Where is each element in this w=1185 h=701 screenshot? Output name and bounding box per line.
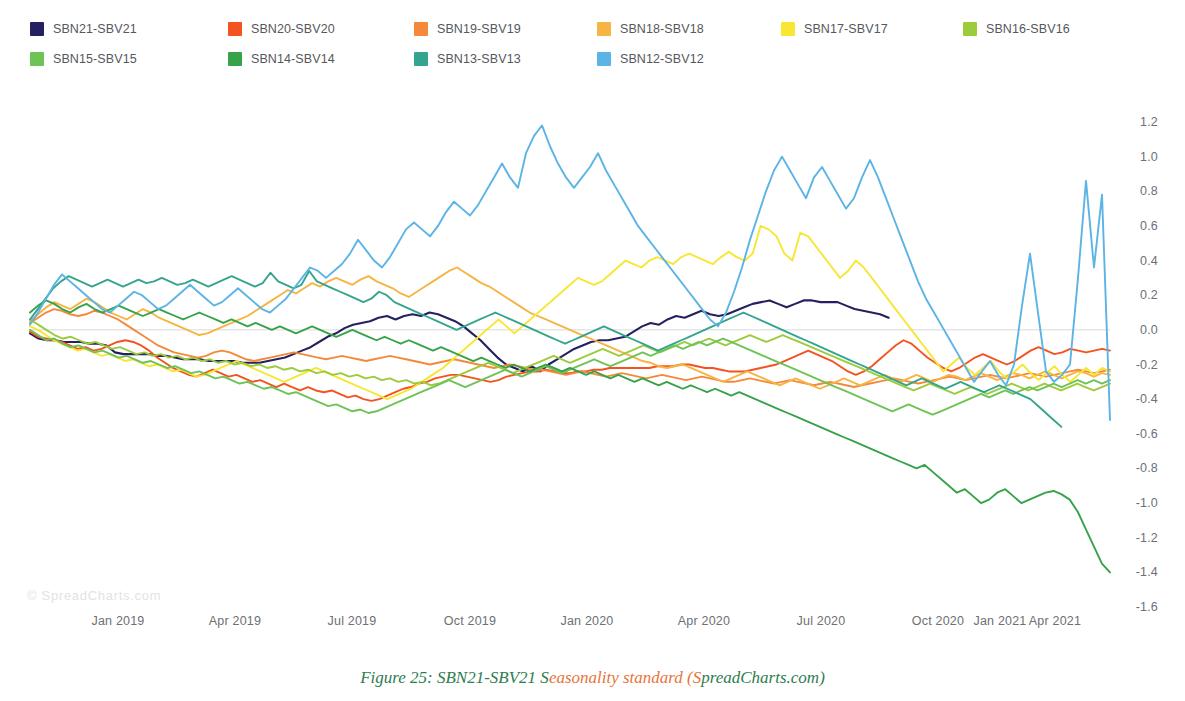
- y-axis-tick-label: -0.4: [1112, 392, 1158, 406]
- legend-item-label: SBN14-SBV14: [251, 52, 335, 66]
- legend-item-sbn16-sbv16[interactable]: SBN16-SBV16: [963, 14, 1148, 44]
- x-axis-tick-label: Apr 2020: [678, 614, 730, 628]
- legend-swatch-icon: [597, 52, 611, 66]
- x-axis-labels: Jan 2019Apr 2019Jul 2019Oct 2019Jan 2020…: [0, 614, 1185, 640]
- legend-item-label: SBN15-SBV15: [53, 52, 137, 66]
- legend-item-label: SBN20-SBV20: [251, 22, 335, 36]
- y-axis-tick-label: -0.6: [1112, 427, 1158, 441]
- legend-swatch-icon: [963, 22, 977, 36]
- figure-caption: Figure 25: SBN21-SBV21 Seasonality stand…: [0, 668, 1185, 688]
- legend-swatch-icon: [414, 22, 428, 36]
- x-axis-tick-label: Jan 2021: [973, 614, 1026, 628]
- legend-swatch-icon: [781, 22, 795, 36]
- legend-item-sbn13-sbv13[interactable]: SBN13-SBV13: [414, 44, 597, 74]
- x-axis-tick-label: Oct 2020: [912, 614, 964, 628]
- watermark: © SpreadCharts.com: [27, 588, 161, 603]
- legend-item-sbn14-sbv14[interactable]: SBN14-SBV14: [228, 44, 414, 74]
- legend-item-label: SBN13-SBV13: [437, 52, 521, 66]
- y-axis-tick-label: -1.2: [1112, 531, 1158, 545]
- y-axis-tick-label: -1.6: [1112, 600, 1158, 614]
- x-axis-tick-label: Jul 2019: [328, 614, 377, 628]
- legend-item-sbn19-sbv19[interactable]: SBN19-SBV19: [414, 14, 597, 44]
- plot-area: [0, 112, 1185, 612]
- legend-item-label: SBN19-SBV19: [437, 22, 521, 36]
- x-axis-tick-label: Apr 2019: [209, 614, 261, 628]
- y-axis-tick-label: 0.4: [1112, 254, 1158, 268]
- y-axis-tick-label: -1.4: [1112, 565, 1158, 579]
- legend-swatch-icon: [228, 52, 242, 66]
- legend-swatch-icon: [228, 22, 242, 36]
- series-line-sbn13-sbv13: [30, 271, 1061, 427]
- caption-part-2: easonality standard (S: [549, 668, 701, 687]
- chart-legend: SBN21-SBV21SBN20-SBV20SBN19-SBV19SBN18-S…: [30, 14, 1150, 74]
- y-axis-tick-label: 0.6: [1112, 219, 1158, 233]
- legend-item-sbn20-sbv20[interactable]: SBN20-SBV20: [228, 14, 414, 44]
- legend-swatch-icon: [597, 22, 611, 36]
- y-axis-tick-label: 1.0: [1112, 150, 1158, 164]
- legend-item-sbn21-sbv21[interactable]: SBN21-SBV21: [30, 14, 228, 44]
- legend-item-label: SBN18-SBV18: [620, 22, 704, 36]
- y-axis-tick-label: 1.2: [1112, 115, 1158, 129]
- x-axis-tick-label: Jul 2020: [797, 614, 846, 628]
- figure-container: SBN21-SBV21SBN20-SBV20SBN19-SBV19SBN18-S…: [0, 0, 1185, 701]
- y-axis-labels: 1.21.00.80.60.40.20.0-0.2-0.4-0.6-0.8-1.…: [1112, 112, 1172, 612]
- series-lines: [30, 125, 1110, 572]
- caption-part-3: preadCharts.com): [701, 668, 825, 687]
- x-axis-tick-label: Apr 2021: [1029, 614, 1081, 628]
- y-axis-tick-label: -0.8: [1112, 461, 1158, 475]
- legend-item-sbn15-sbv15[interactable]: SBN15-SBV15: [30, 44, 228, 74]
- legend-swatch-icon: [30, 22, 44, 36]
- line-chart-svg: [0, 112, 1185, 612]
- x-axis-tick-label: Oct 2019: [444, 614, 496, 628]
- x-axis-tick-label: Jan 2019: [91, 614, 144, 628]
- x-axis-tick-label: Jan 2020: [560, 614, 613, 628]
- y-axis-tick-label: 0.0: [1112, 323, 1158, 337]
- legend-item-label: SBN12-SBV12: [620, 52, 704, 66]
- y-axis-tick-label: -0.2: [1112, 358, 1158, 372]
- legend-item-label: SBN17-SBV17: [804, 22, 888, 36]
- y-axis-tick-label: -1.0: [1112, 496, 1158, 510]
- legend-item-sbn18-sbv18[interactable]: SBN18-SBV18: [597, 14, 781, 44]
- legend-item-label: SBN16-SBV16: [986, 22, 1070, 36]
- legend-swatch-icon: [30, 52, 44, 66]
- y-axis-tick-label: 0.2: [1112, 288, 1158, 302]
- y-axis-tick-label: 0.8: [1112, 184, 1158, 198]
- legend-item-label: SBN21-SBV21: [53, 22, 137, 36]
- legend-swatch-icon: [414, 52, 428, 66]
- legend-item-sbn12-sbv12[interactable]: SBN12-SBV12: [597, 44, 781, 74]
- caption-part-1: Figure 25: SBN21-SBV21 S: [360, 668, 549, 687]
- legend-item-sbn17-sbv17[interactable]: SBN17-SBV17: [781, 14, 963, 44]
